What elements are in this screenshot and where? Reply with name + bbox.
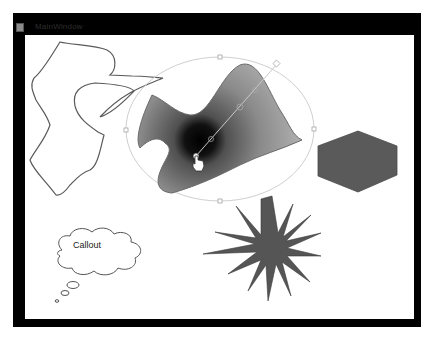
resize-handle-top[interactable]: [218, 55, 222, 59]
app-icon[interactable]: [16, 23, 24, 32]
hexagon-shape[interactable]: [318, 131, 397, 192]
resize-handle-bottom[interactable]: [218, 199, 222, 203]
drawing-canvas[interactable]: Callout: [25, 35, 414, 319]
title-bar[interactable]: MainWindow: [13, 13, 421, 35]
resize-handle-left[interactable]: [124, 128, 128, 132]
main-window: MainWindow: [13, 13, 421, 327]
window-title: MainWindow: [35, 22, 83, 31]
resize-handle-right[interactable]: [312, 127, 316, 131]
star-shape[interactable]: [203, 196, 321, 301]
callout-text: Callout: [62, 240, 112, 250]
